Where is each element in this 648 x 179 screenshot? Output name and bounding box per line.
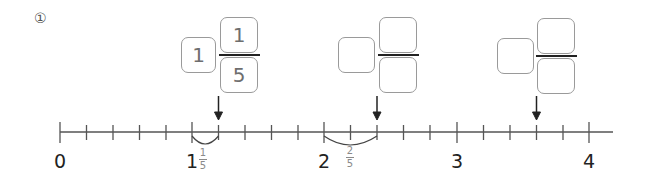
hint-fraction-two-fifths: 2 5 bbox=[346, 146, 354, 169]
label-0: 0 bbox=[54, 150, 66, 172]
hint-1-numerator: 1 bbox=[200, 148, 206, 158]
label-4: 4 bbox=[583, 150, 595, 172]
hint-fraction-one-fifth: 1 5 bbox=[199, 148, 207, 171]
hint-2-numerator: 2 bbox=[347, 146, 353, 156]
hint-1-denominator: 5 bbox=[200, 161, 206, 171]
tick-marks bbox=[60, 122, 589, 143]
hint-2-denominator: 5 bbox=[347, 159, 353, 169]
label-3: 3 bbox=[451, 150, 463, 172]
label-1: 1 bbox=[186, 150, 198, 172]
arc-one-fifth bbox=[192, 136, 219, 144]
label-2: 2 bbox=[318, 150, 330, 172]
arrow-icons bbox=[215, 96, 541, 120]
